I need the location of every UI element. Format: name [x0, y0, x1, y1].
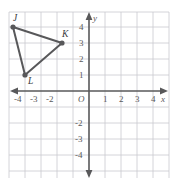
- vertex-label-l: L: [28, 77, 33, 87]
- vertex-point-l: [22, 72, 27, 77]
- y-axis-name: y: [93, 14, 97, 23]
- vertex-label-k: K: [62, 30, 68, 40]
- y-tick-pos4: 4: [79, 23, 84, 32]
- vertex-point-j: [10, 24, 15, 29]
- x-tick-neg4: -4: [14, 95, 22, 104]
- y-tick-neg4: -4: [75, 151, 83, 160]
- y-tick-pos2: 2: [79, 55, 84, 64]
- x-tick-pos1: 1: [103, 95, 108, 104]
- x-tick-neg2: -2: [46, 95, 54, 104]
- x-tick-pos3: 3: [135, 95, 140, 104]
- triangle-jkl: [13, 27, 62, 75]
- x-tick-pos2: 2: [119, 95, 124, 104]
- origin-label: O: [78, 95, 85, 104]
- y-tick-pos3: 3: [79, 39, 84, 48]
- vertex-point-k: [59, 40, 64, 45]
- x-tick-pos4: 4: [151, 95, 156, 104]
- coordinate-plane-figure: -4 -3 -2 1 2 3 4 4 3 2 1 -2 -3 -4 O x y …: [0, 0, 174, 187]
- y-axis: [86, 12, 93, 178]
- coordinate-plane-svg: [0, 0, 174, 187]
- y-tick-neg3: -3: [75, 135, 83, 144]
- x-axis-name: x: [161, 95, 165, 104]
- x-tick-neg3: -3: [30, 95, 38, 104]
- vertex-label-j: J: [13, 14, 17, 24]
- y-tick-neg2: -2: [75, 119, 83, 128]
- y-tick-pos1: 1: [79, 71, 84, 80]
